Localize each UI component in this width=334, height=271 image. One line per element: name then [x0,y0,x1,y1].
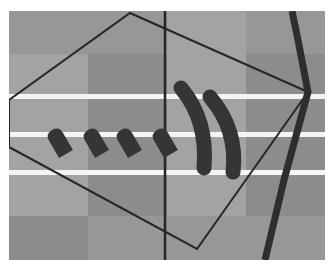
map-tile [9,216,88,260]
map-tile [88,216,167,260]
map-tile [9,11,88,54]
map-tile [246,11,325,54]
map-tile [88,11,167,54]
map-tile [167,216,246,260]
map-tile [246,216,325,260]
lane-stripe [9,94,325,99]
map-canvas[interactable] [0,0,334,271]
